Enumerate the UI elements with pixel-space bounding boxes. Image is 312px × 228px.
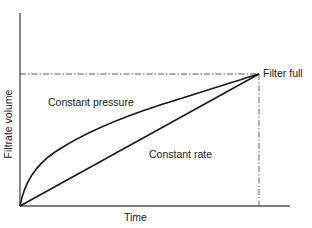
constant-pressure-label: Constant pressure xyxy=(48,96,134,108)
y-axis-label: Filtrate volume xyxy=(2,89,14,158)
filter-full-label: Filter full xyxy=(263,67,303,79)
x-axis-label: Time xyxy=(124,211,147,223)
filtration-diagram: Constant pressure Constant rate Filter f… xyxy=(0,0,312,228)
constant-rate-line xyxy=(20,74,259,206)
constant-rate-label: Constant rate xyxy=(149,148,212,160)
